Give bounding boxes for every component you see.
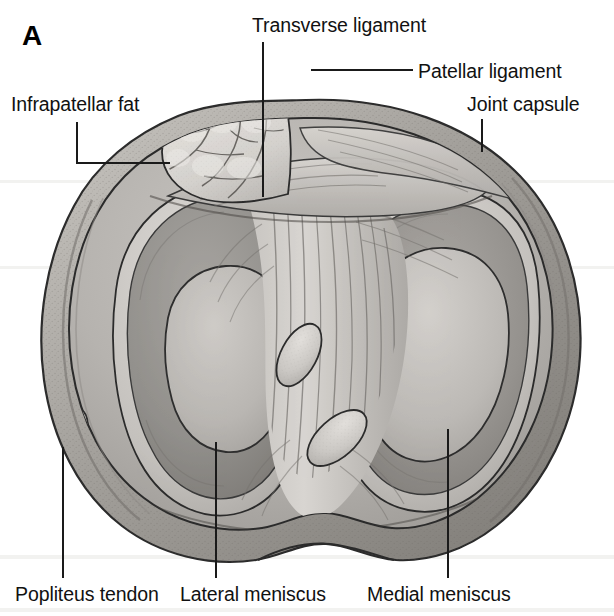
leader-infrapatellar-fat-vertical	[76, 122, 78, 163]
leader-medial-meniscus	[447, 429, 449, 578]
leader-lateral-meniscus	[215, 442, 217, 578]
label-lateral-meniscus: Lateral meniscus	[180, 583, 326, 605]
leader-transverse-ligament	[262, 42, 264, 197]
leader-infrapatellar-fat-horizontal	[76, 162, 170, 164]
label-joint-capsule: Joint capsule	[467, 93, 580, 115]
label-medial-meniscus: Medial meniscus	[367, 583, 511, 605]
leader-joint-capsule	[481, 119, 483, 152]
label-transverse-ligament: Transverse ligament	[252, 14, 426, 36]
label-popliteus-tendon: Popliteus tendon	[15, 583, 159, 605]
panel-letter-a: A	[22, 20, 42, 52]
label-patellar-ligament: Patellar ligament	[418, 60, 562, 82]
label-infrapatellar-fat: Infrapatellar fat	[11, 93, 139, 115]
leader-popliteus-tendon	[62, 447, 64, 578]
leader-patellar-ligament	[311, 69, 413, 71]
anatomical-figure: A Transverse ligament Patellar ligament …	[0, 0, 614, 616]
